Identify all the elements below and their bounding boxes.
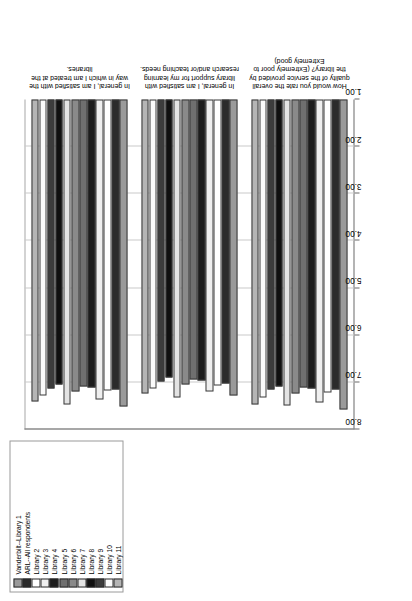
legend-item-label: Library 3 <box>41 548 48 574</box>
legend-item-label: Library 10 <box>105 545 112 574</box>
bar <box>259 99 267 397</box>
legend-swatch-icon <box>86 578 95 587</box>
category-axis-label: In general, I am satisfied with the way … <box>27 33 131 89</box>
rotated-figure-canvas: Vanderbilt--Library 1ARL--All respondent… <box>0 0 412 601</box>
bar-group <box>244 99 354 429</box>
legend-item[interactable]: Library 7 <box>77 445 86 587</box>
bar <box>157 99 165 381</box>
legend-item[interactable]: Library 4 <box>49 445 58 587</box>
bar <box>71 99 79 391</box>
bar <box>283 99 291 405</box>
legend-item[interactable]: Library 2 <box>31 445 40 587</box>
axis-tick <box>354 192 359 193</box>
legend-swatch-icon <box>104 578 113 587</box>
bar <box>275 99 283 386</box>
legend-swatch-icon <box>95 578 104 587</box>
bar <box>181 99 189 384</box>
bar <box>119 99 127 406</box>
bar <box>339 99 347 409</box>
axis-tick-label: 6.00 <box>345 322 361 331</box>
bar <box>47 99 55 388</box>
bar <box>149 99 157 388</box>
category-axis-label: How would you rate the overall quality o… <box>247 33 351 89</box>
axis-tick-label: 3.00 <box>345 181 361 190</box>
axis-tick-label: 2.00 <box>345 134 361 143</box>
legend-item-label: Library 4 <box>50 548 57 574</box>
bar <box>197 99 205 380</box>
bar <box>229 99 237 395</box>
legend-swatch-icon <box>40 578 49 587</box>
bar <box>251 99 259 404</box>
bar <box>323 99 331 392</box>
legend-item[interactable]: Library 5 <box>58 445 67 587</box>
plot-frame <box>24 99 354 429</box>
legend-swatch-icon <box>59 578 68 587</box>
legend-swatch-icon <box>22 578 31 587</box>
axis-tick-label: 8.00 <box>345 416 361 425</box>
bar <box>165 99 173 377</box>
bar <box>103 99 111 390</box>
bar <box>315 99 323 402</box>
plot-area: 1.002.003.004.005.006.007.008.00In gener… <box>24 79 354 429</box>
axis-tick <box>354 145 359 146</box>
bar <box>213 99 221 385</box>
bar <box>87 99 95 387</box>
legend-swatch-icon <box>31 578 40 587</box>
bar-group <box>24 99 134 429</box>
axis-tick-label: 7.00 <box>345 369 361 378</box>
bar <box>31 99 39 401</box>
legend-item-label: Library 2 <box>32 548 39 574</box>
axis-tick <box>354 428 359 429</box>
legend-item[interactable]: Library 9 <box>95 445 104 587</box>
legend-item-label: Library 11 <box>114 545 121 574</box>
legend-swatch-icon <box>77 578 86 587</box>
axis-tick-label: 5.00 <box>345 275 361 284</box>
bar <box>189 99 197 379</box>
category-axis-label: In general, I am satisfied with library … <box>137 33 241 89</box>
legend-swatch-icon <box>113 578 122 587</box>
bar <box>221 99 229 383</box>
axis-tick <box>354 98 359 99</box>
legend-item-label: Library 9 <box>96 548 103 574</box>
bar <box>39 99 47 395</box>
chart-page: Vanderbilt--Library 1ARL--All respondent… <box>0 0 412 601</box>
bar <box>267 99 275 389</box>
legend-item-label: ARL--All respondents <box>23 511 30 574</box>
bar <box>111 99 119 389</box>
bar <box>141 99 149 393</box>
chart-legend: Vanderbilt--Library 1ARL--All respondent… <box>9 440 123 592</box>
legend-item-label: Library 5 <box>60 548 67 574</box>
legend-item-label: Vanderbilt--Library 1 <box>14 515 21 574</box>
legend-swatch-icon <box>49 578 58 587</box>
axis-tick <box>354 239 359 240</box>
bar <box>173 99 181 397</box>
bar <box>79 99 87 386</box>
axis-tick-label: 4.00 <box>345 228 361 237</box>
legend-item-label: Library 8 <box>87 548 94 574</box>
axis-tick <box>354 334 359 335</box>
legend-item[interactable]: Library 8 <box>86 445 95 587</box>
bar <box>95 99 103 399</box>
legend-swatch-icon <box>13 578 22 587</box>
legend-item-label: Library 7 <box>78 548 85 574</box>
legend-item[interactable]: Library 10 <box>104 445 113 587</box>
legend-item[interactable]: Library 3 <box>40 445 49 587</box>
legend-item[interactable]: Vanderbilt--Library 1 <box>13 445 22 587</box>
legend-swatch-icon <box>68 578 77 587</box>
bar <box>55 99 63 384</box>
legend-item[interactable]: Library 6 <box>68 445 77 587</box>
legend-item[interactable]: ARL--All respondents <box>22 445 31 587</box>
bar <box>307 99 315 388</box>
legend-item[interactable]: Library 11 <box>113 445 122 587</box>
bar <box>299 99 307 387</box>
legend-item-label: Library 6 <box>69 548 76 574</box>
axis-tick <box>354 381 359 382</box>
bar <box>63 99 71 404</box>
bar <box>331 99 339 389</box>
axis-tick <box>354 287 359 288</box>
bar <box>205 99 213 391</box>
bar-group <box>134 99 244 429</box>
bar <box>291 99 299 393</box>
